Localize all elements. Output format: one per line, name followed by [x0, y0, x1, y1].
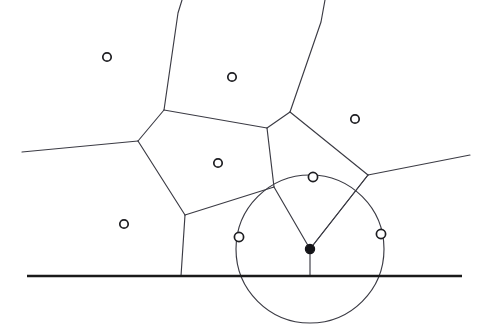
site-markers-group: [103, 53, 386, 242]
edge-apex-to-top-exit: [290, 0, 325, 112]
site-lower-left: [120, 220, 128, 228]
spoke-to-top-site: [310, 175, 368, 249]
edge-far-right-vertex-to-right-edge: [368, 155, 470, 175]
edge-upper-vertex-to-top-exit: [164, 0, 182, 110]
edge-left-boundary: [22, 141, 138, 152]
voronoi-vertex-group: [305, 244, 314, 253]
site-circle-left: [234, 232, 243, 241]
edge-upper-vertex-to-right-vertex: [164, 110, 267, 128]
voronoi-edges-group: [22, 0, 470, 276]
site-circle-right: [376, 229, 385, 238]
spoke-to-left-site: [274, 187, 310, 249]
site-upper-right: [351, 115, 359, 123]
voronoi-vertex-circle-center: [305, 244, 314, 253]
edge-lower-vertex-to-triple-point: [185, 187, 274, 215]
edge-left-vertex-to-lower-vertex: [138, 141, 185, 215]
site-upper-left: [103, 53, 111, 61]
edge-right-vertex-to-triple-point: [267, 128, 274, 187]
voronoi-figure: [0, 0, 486, 336]
site-center: [214, 159, 222, 167]
site-circle-top: [308, 172, 317, 181]
edge-left-vertex-to-upper-vertex: [138, 110, 164, 141]
site-upper-middle: [228, 73, 236, 81]
edge-right-vertex-to-apex: [267, 112, 290, 128]
voronoi-canvas: [0, 0, 486, 336]
spokes-group: [274, 175, 368, 276]
edge-lower-vertex-to-baseline: [181, 215, 185, 276]
